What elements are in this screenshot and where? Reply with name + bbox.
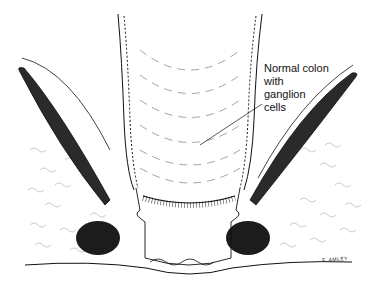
- sphincter-left: [76, 221, 120, 255]
- sphincter-right: [226, 221, 270, 255]
- anastomosis-line: [143, 196, 235, 203]
- illustration: Normal colon with ganglion cells F. AMLE…: [0, 0, 375, 283]
- pelvis-cross-section-drawing: [0, 0, 375, 283]
- levator-muscle-left: [19, 68, 110, 206]
- annotation-normal-colon: Normal colon with ganglion cells: [264, 62, 329, 114]
